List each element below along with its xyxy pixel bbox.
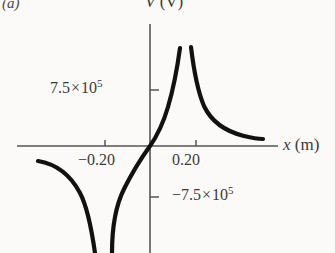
y-axis-title: V (V) bbox=[145, 0, 183, 10]
y-tick-negative-base: 10 bbox=[212, 186, 228, 203]
potential-vs-position-figure: (a) V (V) x (m) 7.5×105 −7.5×105 −0.20 0… bbox=[0, 0, 335, 253]
curve-branch-far-left bbox=[38, 161, 95, 253]
curve-branch-right bbox=[191, 47, 263, 139]
x-tick-label-positive: 0.20 bbox=[172, 152, 200, 168]
y-axis-title-symbol: V bbox=[145, 0, 155, 11]
x-axis-title-symbol: x bbox=[283, 135, 291, 154]
x-axis-title: x (m) bbox=[283, 136, 319, 153]
y-axis-title-unit: (V) bbox=[160, 0, 184, 11]
y-tick-negative-mantissa: 7.5 bbox=[181, 186, 201, 203]
y-tick-positive-base: 10 bbox=[81, 79, 97, 96]
plot-canvas bbox=[0, 0, 335, 253]
y-tick-label-negative: −7.5×105 bbox=[172, 187, 234, 203]
y-tick-positive-mantissa: 7.5 bbox=[50, 79, 70, 96]
panel-label: (a) bbox=[2, 0, 20, 11]
y-tick-label-positive: 7.5×105 bbox=[50, 80, 103, 96]
y-tick-negative-sign: − bbox=[172, 186, 181, 203]
y-tick-negative-exponent: 5 bbox=[228, 184, 234, 196]
y-tick-positive-times: × bbox=[70, 79, 81, 96]
y-tick-positive-exponent: 5 bbox=[97, 77, 103, 89]
x-axis-title-unit: (m) bbox=[295, 135, 320, 154]
curve-branch-middle bbox=[112, 48, 180, 253]
x-tick-label-negative: −0.20 bbox=[78, 152, 115, 168]
y-tick-negative-times: × bbox=[201, 186, 212, 203]
